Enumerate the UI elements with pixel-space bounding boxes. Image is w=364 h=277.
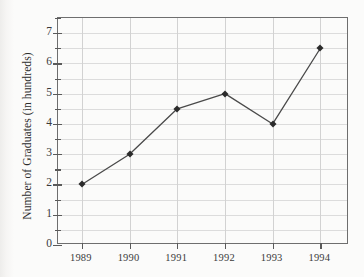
- chart-figure: Number of Graduates (in hundreds) 012345…: [0, 0, 364, 277]
- y-tick-label: 0: [46, 238, 52, 250]
- x-tick-label: 1989: [70, 252, 92, 263]
- y-axis-tick-labels: 01234567: [36, 17, 52, 244]
- plot-area: [57, 17, 348, 244]
- y-tick-label: 3: [46, 147, 52, 159]
- y-tick-major: [53, 245, 62, 246]
- y-tick-label: 7: [46, 26, 52, 38]
- x-tick-label: 1992: [213, 252, 235, 263]
- x-tick-label: 1994: [308, 252, 330, 263]
- x-tick-label: 1993: [261, 252, 283, 263]
- y-tick-label: 4: [46, 117, 52, 129]
- x-tick-label: 1991: [165, 252, 187, 263]
- y-tick-label: 2: [46, 178, 52, 190]
- x-tick-label: 1990: [118, 252, 140, 263]
- series-polyline: [82, 48, 321, 184]
- scan-edge-artifact: [0, 0, 14, 277]
- y-axis-title: Number of Graduates (in hundreds): [21, 36, 33, 236]
- y-tick-label: 5: [46, 87, 52, 99]
- x-axis-tick-labels: 198919901991199219931994: [57, 252, 348, 268]
- data-line-series: [58, 18, 349, 245]
- y-tick-label: 1: [46, 208, 52, 220]
- y-tick-label: 6: [46, 57, 52, 69]
